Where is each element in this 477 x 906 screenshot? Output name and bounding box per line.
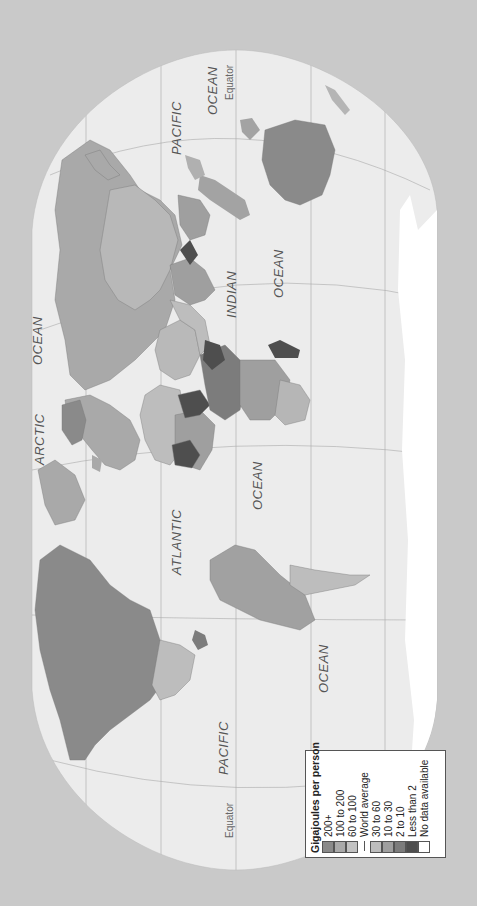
legend-label: 2 to 10 — [395, 806, 406, 837]
legend-item-10-30: 10 to 30 — [382, 755, 394, 853]
label-equator-bottom: Equator — [224, 802, 235, 838]
legend-item-no-data: No data available — [418, 755, 430, 853]
label-pacific-east: PACIFIC — [169, 101, 184, 155]
label-pacific-west: PACIFIC — [216, 721, 231, 775]
legend-label: 10 to 30 — [383, 801, 394, 837]
label-atlantic-ocean: OCEAN — [250, 461, 265, 510]
legend-item-less-than-2: Less than 2 — [406, 755, 418, 853]
swatch-icon — [322, 841, 334, 853]
legend-title: Gigajoules per person — [309, 755, 321, 853]
legend-label: No data available — [419, 760, 430, 837]
label-arctic-ocean: OCEAN — [30, 316, 45, 365]
label-indian: INDIAN — [224, 271, 239, 318]
legend-label: 30 to 60 — [371, 801, 382, 837]
legend-item-60-100: 60 to 100 — [346, 755, 358, 853]
label-indian-ocean: OCEAN — [271, 249, 286, 298]
swatch-icon — [394, 841, 406, 853]
label-atlantic: ATLANTIC — [169, 509, 184, 576]
label-pacific-east-ocean: OCEAN — [205, 66, 220, 115]
swatch-icon — [346, 841, 358, 853]
legend-label: 60 to 100 — [347, 795, 358, 837]
legend-label: Less than 2 — [407, 785, 418, 837]
legend: Gigajoules per person 200+ 100 to 200 60… — [305, 750, 446, 858]
label-pacific-west-ocean: OCEAN — [316, 644, 331, 693]
swatch-icon — [406, 841, 418, 853]
swatch-icon — [382, 841, 394, 853]
legend-item-30-60: 30 to 60 — [370, 755, 382, 853]
legend-item-200-plus: 200+ — [322, 755, 334, 853]
legend-label: World average — [359, 772, 370, 837]
legend-item-2-10: 2 to 10 — [394, 755, 406, 853]
label-equator-top: Equator — [224, 64, 235, 100]
average-line-icon — [364, 841, 365, 851]
swatch-icon — [370, 841, 382, 853]
label-arctic: ARCTIC — [32, 414, 47, 467]
legend-label: 200+ — [323, 814, 334, 837]
swatch-icon — [334, 841, 346, 853]
legend-world-average: World average — [358, 755, 370, 853]
swatch-icon — [418, 841, 430, 853]
legend-item-100-200: 100 to 200 — [334, 755, 346, 853]
legend-label: 100 to 200 — [335, 790, 346, 837]
